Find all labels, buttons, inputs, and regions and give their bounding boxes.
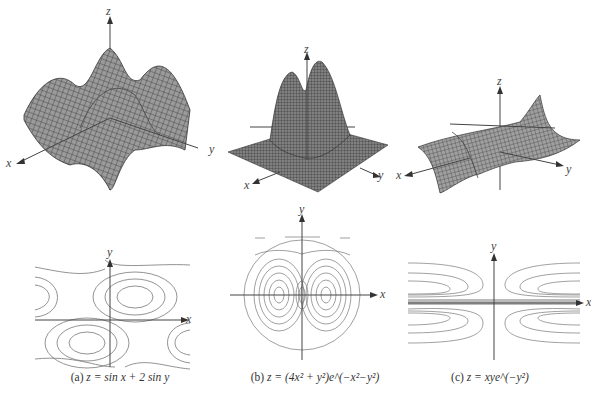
axis-label-y: y: [378, 168, 383, 183]
axis-label-y: y: [107, 245, 112, 260]
caption-b: (b) z = (4x² + y²)e^(−x²−y²): [240, 371, 390, 383]
caption-c: (c) z = xye^(−y²): [425, 371, 555, 383]
surface-plot-c: z x y: [390, 40, 590, 200]
caption-c-equation: z = xye^(−y²): [467, 371, 529, 383]
contour-plot-a: y x: [35, 255, 195, 370]
contour-plot-b: y x: [230, 210, 390, 360]
caption-c-prefix: (c): [451, 371, 464, 383]
caption-b-equation: z = (4x² + y²)e^(−x²−y²): [267, 371, 379, 383]
surface-b-graphic: [200, 0, 400, 200]
surface-c-graphic: [390, 40, 590, 200]
axis-label-y: y: [299, 202, 304, 217]
axis-label-y: y: [491, 239, 496, 254]
axis-label-x: x: [380, 287, 385, 302]
axis-label-z: z: [106, 4, 111, 19]
axis-label-x: x: [396, 168, 401, 183]
caption-b-prefix: (b): [251, 371, 264, 383]
caption-a-prefix: (a): [71, 371, 84, 383]
contour-c-graphic: [408, 255, 588, 365]
axis-label-z: z: [497, 74, 502, 89]
contour-plot-c: y x: [408, 255, 588, 365]
axis-label-x: x: [244, 178, 249, 193]
caption-a: (a) z = sin x + 2 sin y: [50, 371, 190, 383]
contour-b-graphic: [230, 210, 390, 360]
axis-label-x: x: [586, 295, 591, 310]
surface-a-graphic: [0, 0, 200, 200]
contour-a-graphic: [35, 255, 195, 370]
axis-label-z: z: [304, 42, 309, 57]
surface-plot-b: z x y: [200, 0, 400, 200]
axis-label-x: x: [6, 156, 11, 171]
axis-label-x: x: [186, 312, 191, 327]
caption-a-equation: z = sin x + 2 sin y: [86, 371, 169, 383]
axis-label-y: y: [566, 162, 571, 177]
surface-plot-a: z x y: [0, 0, 200, 200]
